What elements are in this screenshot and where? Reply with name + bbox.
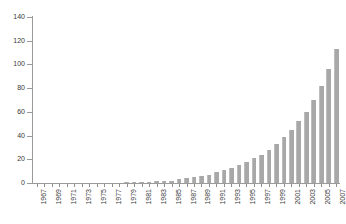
x-axis-tick [306, 184, 307, 187]
y-axis-label: 20 [1, 155, 25, 162]
x-axis-tick [187, 184, 188, 187]
y-axis-label: 140 [1, 13, 25, 20]
x-axis-tick [239, 184, 240, 187]
x-axis-tick [261, 184, 262, 187]
x-axis-label: 1975 [100, 189, 107, 205]
x-axis-tick [246, 184, 247, 187]
y-axis-tick [27, 183, 32, 184]
x-axis-tick [74, 184, 75, 187]
bar [326, 69, 331, 183]
bar [229, 168, 234, 183]
x-axis-tick [134, 184, 135, 187]
x-axis-label: 1977 [115, 189, 122, 205]
bar [199, 176, 204, 183]
bar [169, 181, 174, 183]
x-axis-label: 1969 [55, 189, 62, 205]
y-axis-tick [27, 17, 32, 18]
y-axis-tick [27, 112, 32, 113]
x-axis-line [32, 183, 340, 184]
x-axis-tick [67, 184, 68, 187]
x-axis-label: 1979 [130, 189, 137, 205]
bar [334, 49, 339, 183]
x-axis-label: 1987 [190, 189, 197, 205]
bar [147, 182, 152, 183]
y-axis-tick [27, 159, 32, 160]
x-axis-tick [269, 184, 270, 187]
x-axis-label: 1989 [204, 189, 211, 205]
y-axis-label: 0 [1, 179, 25, 186]
x-axis-label: 1991 [219, 189, 226, 205]
y-axis-tick [27, 41, 32, 42]
x-axis-tick [299, 184, 300, 187]
x-axis-tick [52, 184, 53, 187]
bar [311, 100, 316, 183]
x-axis-tick [314, 184, 315, 187]
y-axis-label: 80 [1, 84, 25, 91]
bar [132, 182, 137, 183]
bar [214, 172, 219, 183]
bar [252, 158, 257, 183]
x-axis-label: 1973 [85, 189, 92, 205]
bar [274, 144, 279, 183]
y-axis-label: 40 [1, 132, 25, 139]
x-axis-tick [119, 184, 120, 187]
bar [319, 86, 324, 183]
x-axis-label: 1995 [249, 189, 256, 205]
x-axis-label: 2001 [294, 189, 301, 205]
x-axis-tick [194, 184, 195, 187]
bar [124, 182, 129, 183]
x-axis-tick [89, 184, 90, 187]
x-axis-tick [37, 184, 38, 187]
x-axis-tick [224, 184, 225, 187]
bar [304, 112, 309, 183]
y-axis-tick [27, 136, 32, 137]
x-axis-tick [179, 184, 180, 187]
bar [184, 178, 189, 183]
x-axis-label: 2007 [339, 189, 346, 205]
x-axis-tick [97, 184, 98, 187]
x-axis-tick [59, 184, 60, 187]
y-axis-label: 100 [1, 60, 25, 67]
bar [237, 165, 242, 183]
bar [154, 181, 159, 183]
x-axis-label: 2003 [309, 189, 316, 205]
x-axis-tick [149, 184, 150, 187]
x-axis-label: 2005 [324, 189, 331, 205]
x-axis-tick [164, 184, 165, 187]
bar [162, 181, 167, 183]
x-axis-tick [291, 184, 292, 187]
y-axis-label: 120 [1, 37, 25, 44]
x-axis-tick [209, 184, 210, 187]
x-axis-tick [127, 184, 128, 187]
x-axis-tick [254, 184, 255, 187]
bar [207, 175, 212, 183]
bar [282, 137, 287, 183]
bars-layer [33, 17, 340, 183]
x-axis-tick [157, 184, 158, 187]
x-axis-tick [172, 184, 173, 187]
x-axis-tick [82, 184, 83, 187]
x-axis-tick [216, 184, 217, 187]
bar [222, 170, 227, 183]
x-axis-label: 1997 [264, 189, 271, 205]
x-axis-tick [201, 184, 202, 187]
x-axis-tick [44, 184, 45, 187]
x-axis-label: 1983 [160, 189, 167, 205]
x-axis-tick [231, 184, 232, 187]
bar [267, 150, 272, 183]
x-axis-tick [329, 184, 330, 187]
bar [259, 155, 264, 183]
bar [296, 121, 301, 183]
bar [289, 130, 294, 183]
x-axis-label: 1981 [145, 189, 152, 205]
y-axis-tick [27, 64, 32, 65]
x-axis-label: 1967 [40, 189, 47, 205]
x-axis-tick [284, 184, 285, 187]
y-axis-tick [27, 88, 32, 89]
x-axis-tick [142, 184, 143, 187]
bar [244, 162, 249, 183]
x-axis-tick [336, 184, 337, 187]
x-axis-label: 1999 [279, 189, 286, 205]
bar [177, 179, 182, 183]
